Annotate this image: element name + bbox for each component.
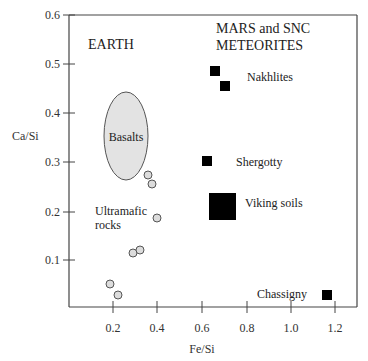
x-tick-label: 0.6	[195, 321, 210, 335]
region-label-mars-line1: MARS and SNC	[216, 21, 310, 36]
y-axis-title: Ca/Si	[12, 129, 39, 143]
y-tick-label: 0.3	[45, 155, 60, 169]
x-tick-label: 0.2	[106, 321, 121, 335]
chassigny-point	[322, 290, 332, 300]
x-tick-label: 0.4	[150, 321, 165, 335]
x-tick-label: 1.2	[328, 321, 343, 335]
ultramafic-label-line1: Ultramafic	[95, 204, 147, 218]
y-tick-label: 0.6	[45, 8, 60, 22]
ultramafic-label-line2: rocks	[95, 218, 121, 232]
shergotty-label: Shergotty	[236, 155, 282, 169]
x-tick-label: 0.8	[240, 321, 255, 335]
scatter-chart: 0.6 0.5 0.4 0.3 0.2 0.1 Ca/Si 0.2 0.4 0.…	[0, 0, 368, 361]
basalts-label: Basalts	[109, 130, 144, 144]
x-axis: 0.2 0.4 0.6 0.8 1.0 1.2 Fe/Si	[106, 301, 343, 356]
x-axis-title: Fe/Si	[189, 342, 215, 356]
data-point	[136, 246, 144, 254]
region-label-mars-line2: METEORITES	[216, 38, 303, 53]
viking-soils-label: Viking soils	[245, 196, 303, 210]
region-label-earth: EARTH	[88, 37, 134, 52]
basalts-region: Basalts	[104, 92, 148, 180]
y-tick-label: 0.2	[45, 205, 60, 219]
data-point	[153, 214, 161, 222]
data-point	[220, 81, 230, 91]
y-axis: 0.6 0.5 0.4 0.3 0.2 0.1 Ca/Si	[12, 8, 75, 267]
data-point	[114, 291, 122, 299]
y-tick-label: 0.1	[45, 253, 60, 267]
shergotty-point	[202, 156, 212, 166]
y-tick-label: 0.5	[45, 57, 60, 71]
x-tick-label: 1.0	[284, 321, 299, 335]
data-point	[148, 180, 156, 188]
ultramafic-points	[106, 171, 161, 299]
data-point	[210, 66, 220, 76]
viking-soils-point	[209, 193, 236, 220]
nakhlites-label: Nakhlites	[247, 70, 293, 84]
chassigny-label: Chassigny	[257, 287, 307, 301]
y-tick-label: 0.4	[45, 106, 60, 120]
data-point	[144, 171, 152, 179]
nakhlites-points	[210, 66, 230, 91]
data-point	[106, 280, 114, 288]
